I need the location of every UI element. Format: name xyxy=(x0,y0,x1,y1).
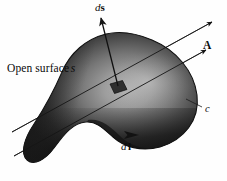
open-surface-body xyxy=(18,24,210,181)
open-surface-label-text: Open surface xyxy=(7,62,69,74)
figure-container: Open surfaces ds dl A c xyxy=(0,0,227,181)
line-element-differential: d xyxy=(121,140,127,152)
line-element-symbol: l xyxy=(127,140,132,152)
open-surface-label: Open surfaces xyxy=(7,63,75,75)
open-surface-diagram xyxy=(0,0,227,181)
line-element-label: dl xyxy=(121,141,131,152)
contour-label: c xyxy=(205,104,210,115)
area-element-label: ds xyxy=(95,2,105,13)
area-element-symbol: s xyxy=(101,1,105,13)
field-vector-label: A xyxy=(203,40,211,52)
open-surface-symbol: s xyxy=(69,62,75,74)
